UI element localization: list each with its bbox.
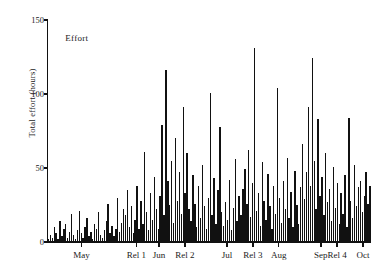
x-tick-label: Rel 4 [327,251,346,260]
x-tick-label: Sep [314,251,328,260]
plot-annotation-effort: Effort [65,33,88,43]
x-tick-label: Oct [356,251,369,260]
x-tick-label: Rel 1 [127,251,146,260]
x-tick-label: Jun [153,251,166,260]
x-axis-tick-labels: MayRel 1JunRel 2JulRel 3AugSepRel 4Oct [0,0,384,277]
chart-figure: 050100150 MayRel 1JunRel 2JulRel 3AugSep… [0,0,384,277]
x-tick-label: Jul [222,251,233,260]
x-tick-label: Aug [271,251,287,260]
x-tick-label: May [73,251,90,260]
y-axis-title: Total effort (hours) [27,23,37,183]
x-tick-label: Rel 3 [243,251,262,260]
x-tick-label: Rel 2 [175,251,194,260]
